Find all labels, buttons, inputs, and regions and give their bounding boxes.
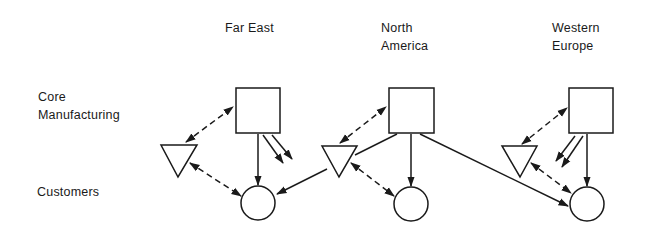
western-europe-dashed-link-square-triangle [522, 108, 567, 144]
western-europe-customers-circle [570, 187, 604, 221]
north-america-dashed-link-triangle-circle [351, 163, 394, 196]
western-europe-secondary-plant-triangle [502, 146, 537, 177]
western-europe-core-plant-square [569, 88, 613, 133]
far-east-export-arrow-1 [263, 135, 283, 163]
north-america-core-plant-square [389, 88, 434, 133]
western-europe-dashed-link-triangle-circle [531, 163, 571, 193]
far-east-export-arrow-2 [272, 135, 292, 159]
western-europe-export-arrow-1 [556, 136, 575, 161]
north-america-link-square-triangle [355, 134, 397, 155]
north-america-secondary-plant-triangle [322, 146, 357, 177]
network-diagram [0, 0, 646, 238]
far-east-dashed-link-triangle-circle [190, 163, 241, 196]
north-america-customers-circle [394, 187, 428, 221]
north-america-to-western-europe-customers-arrow [420, 134, 568, 206]
western-europe-export-arrow-2 [562, 136, 583, 167]
far-east-secondary-plant-triangle [161, 145, 197, 177]
far-east-customers-circle [241, 186, 275, 220]
north-america-dashed-link-square-triangle [340, 107, 386, 143]
north-america-to-far-east-customers-arrow [277, 169, 327, 194]
far-east-core-plant-square [236, 88, 280, 133]
far-east-dashed-link-square-triangle [186, 107, 233, 142]
